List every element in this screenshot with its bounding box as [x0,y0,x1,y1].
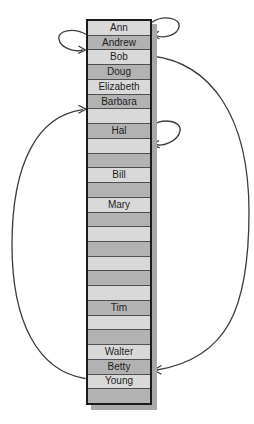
row-label: Andrew [102,38,136,48]
table-row-16 [88,242,150,257]
arrow-hal-to-next-slot [152,121,181,148]
table-row-23: Walter [88,345,150,360]
row-label: Betty [108,362,131,372]
table-row-4: Doug [88,65,150,80]
table-row-12 [88,183,150,198]
table-row-1: Ann [88,21,150,36]
arrow-young-to-slot-7 [12,106,86,379]
table-row-25: Young [88,375,150,390]
row-label: Ann [110,23,128,33]
table-row-11: Bill [88,168,150,183]
row-label: Doug [107,67,131,77]
table-row-18 [88,271,150,286]
table-row-7 [88,109,150,124]
row-label: Elizabeth [98,82,139,92]
table-row-3: Bob [88,50,150,65]
table-row-9 [88,139,150,154]
row-label: Hal [111,126,126,136]
row-label: Tim [111,303,127,313]
table-row-10 [88,154,150,169]
table-row-21 [88,316,150,331]
row-label: Barbara [101,97,137,107]
table-row-24: Betty [88,360,150,375]
table-row-8: Hal [88,124,150,139]
row-label: Mary [108,200,130,210]
row-label: Young [105,376,133,386]
table-row-13: Mary [88,198,150,213]
arrow-bob-to-betty [152,56,249,374]
arrow-ann-to-andrew [152,18,180,38]
row-label: Walter [105,347,134,357]
table-row-5: Elizabeth [88,80,150,95]
table-row-19 [88,286,150,301]
table-row-20: Tim [88,301,150,316]
table-row-6: Barbara [88,95,150,110]
table-row-26 [88,389,150,403]
table-row-2: Andrew [88,36,150,51]
hash-table-array: Ann Andrew Bob Doug Elizabeth Barbara Ha… [86,19,152,405]
row-label: Bob [110,52,128,62]
arrow-andrew-to-bob [59,30,87,53]
diagram-canvas: Ann Andrew Bob Doug Elizabeth Barbara Ha… [0,0,254,424]
row-label: Bill [112,170,125,180]
table-row-14 [88,213,150,228]
table-row-15 [88,227,150,242]
table-row-17 [88,257,150,272]
table-row-22 [88,330,150,345]
